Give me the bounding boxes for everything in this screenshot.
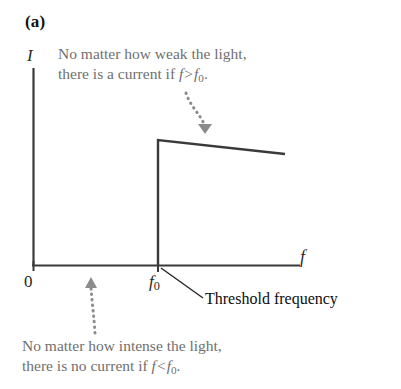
figure-panel: (a) I f 0 f0 No matter how weak the ligh… [0, 0, 401, 389]
photocurrent-curve [158, 140, 285, 265]
lower-dotted-arrow-shaft [91, 288, 95, 333]
threshold-callout-leader-line [161, 268, 203, 298]
upper-dotted-arrow-shaft [186, 93, 204, 124]
figure-graphics [0, 0, 401, 389]
lower-dotted-arrow-head [85, 277, 97, 288]
upper-dotted-arrow-head [198, 124, 212, 134]
